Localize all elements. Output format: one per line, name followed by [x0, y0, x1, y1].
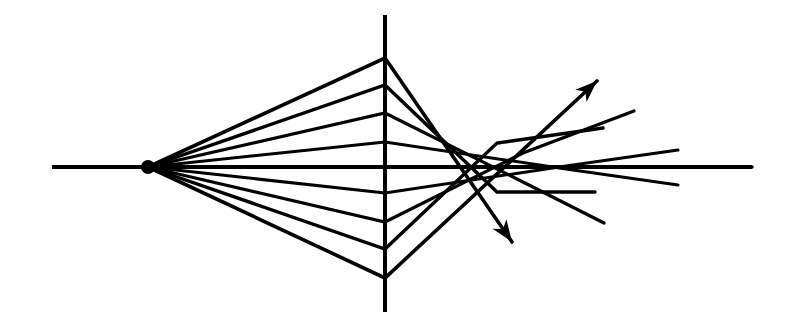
object-point [141, 160, 155, 174]
ray-diagram-canvas [0, 0, 791, 328]
object-point-layer [141, 160, 155, 174]
figure-background [0, 0, 791, 328]
ray-diagram-figure [0, 0, 791, 328]
